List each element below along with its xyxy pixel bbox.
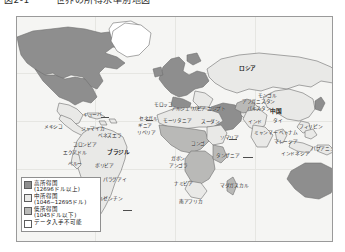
legend-label-no-data: データ入手不可能	[34, 219, 82, 225]
map-label-afghanistan: アフガニスタン	[242, 99, 275, 104]
map-label-namibia: ナミビア	[174, 181, 193, 186]
map-label-congo: コンゴ	[191, 141, 205, 146]
map-label-angola: アンゴラ	[169, 163, 188, 168]
map-label-china: 中国	[270, 108, 281, 113]
legend-item-high-income: 高所得国 (12696ドル以上)	[24, 180, 98, 192]
map-label-jamaica: ジャマイカ	[81, 126, 105, 131]
map-label-ecuador: エクアドル	[63, 150, 87, 155]
map-label-south-africa: 南アフリカ	[179, 199, 203, 204]
map-label-sudan: スーダン	[201, 119, 220, 124]
world-map-panel: メキシコ キューバ ジャマイカ ベネズエラ コロンビア エクアドル ペルー ブラ…	[16, 16, 333, 242]
map-label-india: インド	[248, 119, 262, 124]
map-label-tanzania: タンザニア	[216, 153, 240, 158]
map-label-colombia: コロンビア	[73, 142, 97, 147]
legend-range-high-income: (12696ドル以上)	[34, 186, 80, 192]
figure-caption-number: 図2-1	[4, 0, 30, 5]
figure-caption: 図2-1世界の所得水準別地図	[4, 0, 151, 6]
legend-range-low-income: (1045ドル以下)	[34, 212, 76, 218]
legend-item-low-income: 低所得国 (1045ドル以下)	[24, 206, 98, 218]
legend-swatch-no-data	[24, 220, 32, 228]
map-label-malaysia: マレーシア	[274, 139, 298, 144]
map-label-guinea: ギニア	[138, 123, 152, 128]
leader-line	[123, 210, 132, 211]
leader-line	[243, 157, 253, 158]
map-label-thailand: タイ	[273, 118, 282, 123]
world-map-canvas: メキシコ キューバ ジャマイカ ベネズエラ コロンビア エクアドル ペルー ブラ…	[17, 17, 332, 241]
legend-item-no-data: データ入手不可能	[24, 219, 98, 228]
map-label-gabon: ガボン	[171, 156, 185, 161]
map-label-morocco: モロッコ	[154, 102, 173, 107]
map-label-liberia: リベリア	[137, 130, 156, 135]
legend-range-middle-income: (1046~12695ドル)	[34, 199, 86, 205]
map-label-libya: リビア	[192, 106, 206, 111]
map-label-paraguay: パラグアイ	[103, 177, 127, 182]
map-label-myanmar: ミャンマー	[254, 130, 278, 135]
map-label-vietnam: ベトナム	[279, 130, 298, 135]
region-oceania	[285, 157, 333, 229]
leader-line	[101, 117, 109, 118]
map-label-mexico: メキシコ	[44, 124, 63, 129]
map-label-brazil: ブラジル	[107, 149, 130, 154]
leader-line	[146, 120, 153, 121]
legend-swatch-low-income	[24, 207, 32, 215]
figure-caption-title: 世界の所得水準別地図	[56, 0, 151, 5]
map-label-venezuela: ベネズエラ	[98, 133, 122, 138]
map-label-peru: ペルー	[68, 161, 82, 166]
legend-item-middle-income: 中所得国 (1046~12695ドル)	[24, 193, 98, 205]
map-label-pakistan: パキスタン	[247, 106, 271, 111]
map-label-mauritania: モーリタニア	[163, 118, 191, 123]
map-label-papua-new-guinea: パプアニューギニア	[311, 146, 333, 151]
leader-line	[229, 139, 237, 140]
map-label-russia: ロシア	[239, 65, 256, 70]
map-label-cuba: キューバ	[83, 112, 102, 117]
legend-swatch-high-income	[24, 181, 32, 189]
figure-caption-strip: 図2-1世界の所得水準別地図	[0, 0, 345, 9]
map-label-philippines: フィリピン	[299, 124, 323, 129]
map-legend: 高所得国 (12696ドル以上) 中所得国 (1046~12695ドル) 低所得…	[21, 177, 101, 232]
map-label-bolivia: ボリビア	[95, 163, 114, 168]
map-label-indonesia: インドネシア	[281, 151, 309, 156]
map-label-madagascar: マダガスカル	[220, 183, 248, 188]
legend-swatch-middle-income	[24, 194, 32, 202]
map-label-egypt: エジプト	[207, 106, 226, 111]
